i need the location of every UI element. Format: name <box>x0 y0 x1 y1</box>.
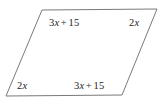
angle-label-bottom-left: 2x <box>17 80 27 91</box>
angle-label-bottom-left-variable: x <box>22 80 27 91</box>
angle-label-top-left-constant: 15 <box>68 17 79 28</box>
angle-label-bottom-right: 3x+15 <box>74 80 104 91</box>
angle-label-top-left: 3x+15 <box>49 17 79 28</box>
angle-label-top-right: 2x <box>129 17 139 28</box>
parallelogram-figure: 3x+15 2x 2x 3x+15 <box>0 0 163 104</box>
angle-label-top-right-variable: x <box>134 17 139 28</box>
angle-label-bottom-right-constant: 15 <box>93 80 104 91</box>
